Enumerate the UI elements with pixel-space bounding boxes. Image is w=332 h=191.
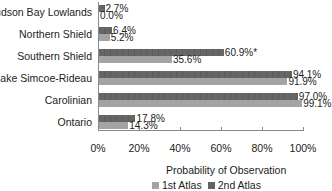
legend: 1st Atlas 2nd Atlas xyxy=(152,179,261,191)
value-label-1st-atlas: 35.6% xyxy=(173,55,201,64)
legend-label-2nd-atlas: 2nd Atlas xyxy=(218,179,261,191)
bar-1st-atlas xyxy=(99,122,128,129)
bar-2nd-atlas xyxy=(99,71,292,78)
x-tick-mark xyxy=(98,127,99,131)
value-label-1st-atlas: 5.2% xyxy=(111,33,134,42)
legend-label-1st-atlas: 1st Atlas xyxy=(162,179,202,191)
x-tick-mark xyxy=(139,127,140,131)
x-tick-label: 40% xyxy=(160,142,200,154)
value-label-1st-atlas: 99.1% xyxy=(303,99,331,108)
legend-swatch-1st-atlas xyxy=(152,182,159,189)
x-tick-mark xyxy=(262,127,263,131)
x-axis-title: Probability of Observation xyxy=(166,164,286,176)
y-axis-line xyxy=(98,2,99,130)
bar-2nd-atlas xyxy=(99,49,224,56)
x-tick-label: 60% xyxy=(201,142,241,154)
x-tick-mark xyxy=(303,127,304,131)
x-tick-mark xyxy=(180,127,181,131)
legend-swatch-2nd-atlas xyxy=(208,182,215,189)
value-label-1st-atlas: 0.0% xyxy=(100,11,123,20)
category-label: Carolinian xyxy=(45,94,92,106)
x-tick-label: 80% xyxy=(242,142,282,154)
bar-1st-atlas xyxy=(99,56,172,63)
bar-1st-atlas xyxy=(99,34,110,41)
bar-1st-atlas xyxy=(99,78,287,85)
x-tick-label: 20% xyxy=(119,142,159,154)
category-label: Northern Shield xyxy=(19,28,92,40)
bar-chart: Hudson Bay Lowlands2.7%0.0%Northern Shie… xyxy=(0,0,332,191)
category-label: Southern Shield xyxy=(17,50,92,62)
x-tick-label: 0% xyxy=(78,142,118,154)
category-label: Hudson Bay Lowlands xyxy=(0,6,92,18)
bar-2nd-atlas xyxy=(99,93,298,100)
category-label: Ontario xyxy=(58,116,92,128)
value-label-1st-atlas: 14.3% xyxy=(129,121,157,130)
value-label-1st-atlas: 91.9% xyxy=(288,77,316,86)
x-tick-label: 100% xyxy=(283,142,323,154)
value-label-2nd-atlas: 60.9%* xyxy=(225,48,257,57)
category-label: Lake Simcoe-Rideau xyxy=(0,72,92,84)
x-tick-mark xyxy=(221,127,222,131)
bar-1st-atlas xyxy=(99,100,302,107)
